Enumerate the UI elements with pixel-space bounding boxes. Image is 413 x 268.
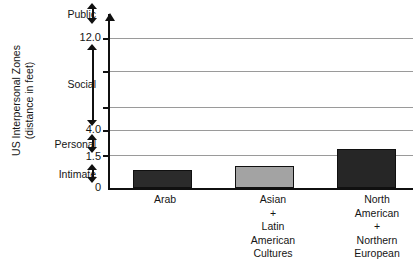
x-category-label-arab: Arab: [110, 193, 220, 207]
plot-area: [108, 8, 413, 190]
gridline-4: [110, 130, 413, 131]
bar-north-american-northern-european: [337, 149, 396, 188]
x-category-line: American: [324, 207, 413, 221]
bar-arab: [133, 170, 192, 187]
gridline-3: [110, 107, 413, 108]
x-category-line: North: [324, 193, 413, 207]
y-tickmark-1-5: [103, 155, 109, 157]
x-category-line: Latin: [218, 220, 328, 234]
gridline-2: [110, 71, 413, 72]
x-category-line: Cultures: [218, 247, 328, 261]
gridline-12: [110, 38, 413, 39]
x-category-line: +: [218, 207, 328, 221]
bar-chart: US Interpersonal Zones (distance in feet…: [0, 0, 413, 268]
y-tickmark-4: [103, 130, 109, 132]
y-tickmark-3: [103, 107, 109, 109]
x-axis-baseline: [108, 188, 413, 190]
x-category-line: American: [218, 234, 328, 248]
y-tick-label-group: 12.0 4.0 1.5 0: [52, 0, 107, 200]
x-category-label-north-american-northern-european: North American + Northern European: [324, 193, 413, 261]
x-category-line: Arab: [110, 193, 220, 207]
x-category-label-group: Arab Asian + Latin American Cultures Nor…: [108, 193, 413, 268]
x-category-line: European: [324, 247, 413, 261]
y-tick-label-4: 4.0: [86, 123, 101, 135]
y-tickmark-2: [103, 71, 109, 73]
x-category-line: Northern: [324, 234, 413, 248]
y-axis-arrow-icon: [105, 13, 115, 21]
x-category-label-asian-latin-american: Asian + Latin American Cultures: [218, 193, 328, 261]
y-tick-label-1-5: 1.5: [86, 150, 101, 162]
x-category-line: Asian: [218, 193, 328, 207]
y-tick-label-0: 0: [95, 181, 101, 193]
y-axis-spine: [108, 14, 110, 188]
y-tickmark-12: [103, 38, 109, 40]
x-category-line: +: [324, 220, 413, 234]
y-tick-label-12: 12.0: [80, 31, 101, 43]
bar-asian-latin-american: [235, 166, 294, 188]
